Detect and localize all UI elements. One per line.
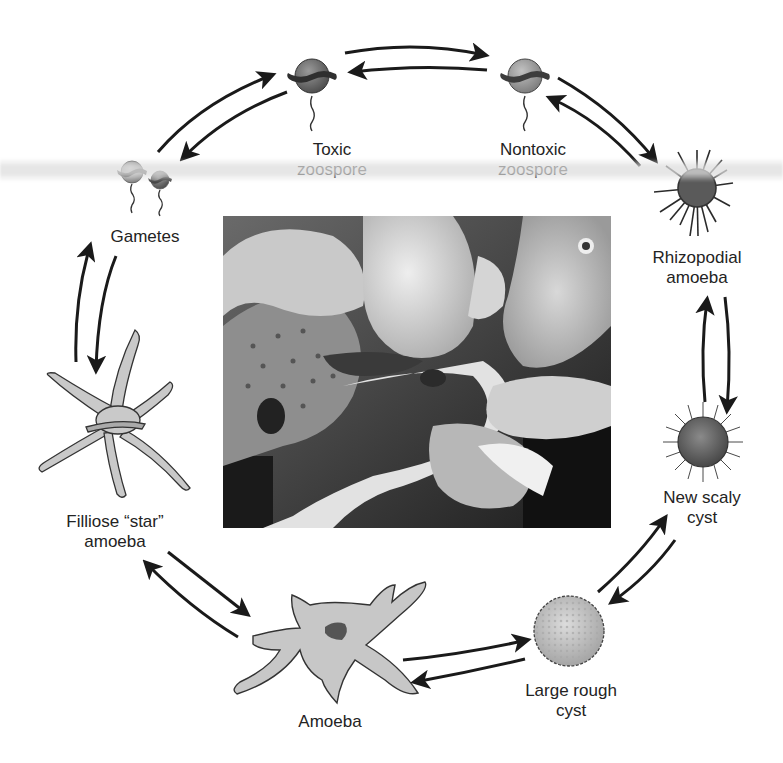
arrow-gametes-to-toxic — [158, 75, 272, 152]
label-new-scaly-cyst: New scaly cyst — [642, 488, 762, 528]
arrow-filliose-to-amoeba — [168, 552, 247, 614]
amoeba-icon — [234, 582, 426, 703]
label-line: Nontoxic — [478, 140, 588, 160]
arrow-roughcyst-to-amoeba — [415, 659, 525, 682]
label-amoeba: Amoeba — [275, 712, 385, 732]
large-rough-cyst-icon — [534, 596, 604, 666]
nontoxic-zoospore-icon — [500, 59, 550, 131]
arrow-rhizopodial-to-scalycyst — [725, 297, 729, 410]
label-line: zoospore — [478, 160, 588, 180]
label-line: Gametes — [90, 227, 200, 247]
label-toxic-zoospore: Toxic zoospore — [282, 140, 382, 180]
label-nontoxic-zoospore: Nontoxic zoospore — [478, 140, 588, 180]
gametes-icon — [117, 161, 172, 216]
new-scaly-cyst-icon — [663, 402, 743, 482]
label-line: Toxic — [282, 140, 382, 160]
filliose-star-amoeba-icon — [39, 330, 190, 497]
label-line: Large rough — [506, 681, 636, 701]
arrow-amoeba-to-roughcyst — [403, 640, 527, 660]
label-line: Rhizopodial — [632, 248, 762, 268]
label-line: cyst — [506, 701, 636, 721]
label-line: Filliose “star” — [40, 512, 190, 532]
label-line: zoospore — [282, 160, 382, 180]
arrow-toxic-to-nontoxic — [345, 47, 485, 55]
arrow-gametes-to-filliose — [96, 256, 116, 370]
arrow-scalycyst-to-rhizopodial — [703, 300, 707, 402]
label-line: Amoeba — [275, 712, 385, 732]
label-line: amoeba — [632, 268, 762, 288]
label-line: cyst — [642, 508, 762, 528]
toxic-zoospore-icon — [287, 59, 337, 131]
cycle-graphics — [0, 0, 783, 763]
arrow-toxic-to-gametes — [183, 92, 287, 158]
arrow-filliose-to-gametes — [76, 246, 90, 362]
arrow-amoeba-to-filliose — [146, 563, 238, 637]
label-line: amoeba — [40, 532, 190, 552]
cycle-arrows — [76, 47, 729, 682]
label-rhizopodial-amoeba: Rhizopodial amoeba — [632, 248, 762, 288]
arrow-roughcyst-to-scalycyst — [598, 518, 665, 592]
rhizopodial-amoeba-icon — [654, 150, 733, 236]
label-large-rough-cyst: Large rough cyst — [506, 681, 636, 721]
label-gametes: Gametes — [90, 227, 200, 247]
label-line: New scaly — [642, 488, 762, 508]
life-cycle-diagram: Toxic zoospore Nontoxic zoospore Rhizopo… — [0, 0, 783, 763]
label-filliose-star-amoeba: Filliose “star” amoeba — [40, 512, 190, 552]
arrow-nontoxic-to-toxic — [352, 67, 487, 72]
